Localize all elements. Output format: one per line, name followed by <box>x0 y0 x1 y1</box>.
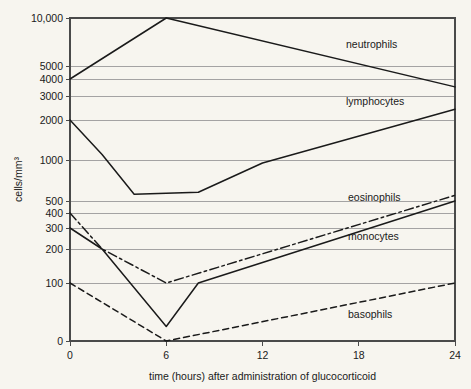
blood-cell-counts-line-chart: 01002003004005001000200030004000500010,0… <box>0 0 471 389</box>
series-line-neutrophils <box>70 18 455 87</box>
series-line-lymphocytes <box>70 109 455 194</box>
series-line-monocytes <box>70 201 455 327</box>
y-tick-label: 500 <box>45 195 63 207</box>
x-tick-label: 6 <box>163 349 169 361</box>
y-tick-label: 10,000 <box>31 12 63 24</box>
series-label-neutrophils: neutrophils <box>346 38 397 50</box>
series-label-lymphocytes: lymphocytes <box>346 95 404 107</box>
y-tick-label: 4000 <box>40 73 64 85</box>
x-tick-label: 18 <box>353 349 365 361</box>
chart-figure: 01002003004005001000200030004000500010,0… <box>0 0 471 389</box>
y-tick-label: 1000 <box>40 154 64 166</box>
x-tick-label: 12 <box>257 349 269 361</box>
series-label-monocytes: monocytes <box>348 230 399 242</box>
x-tick-label: 0 <box>67 349 73 361</box>
y-tick-label: 2000 <box>40 114 64 126</box>
gridlines <box>70 18 455 283</box>
series-label-eosinophils: eosinophils <box>348 191 401 203</box>
y-tick-label: 200 <box>45 243 63 255</box>
page-caption-fragment <box>0 379 471 389</box>
y-tick-label: 0 <box>57 335 63 347</box>
series-label-basophils: basophils <box>348 308 392 320</box>
y-tick-label: 300 <box>45 222 63 234</box>
x-tick-label: 24 <box>449 349 461 361</box>
y-axis-ticks: 01002003004005001000200030004000500010,0… <box>31 12 70 347</box>
series-line-basophils <box>70 283 455 341</box>
y-tick-label: 400 <box>45 207 63 219</box>
x-axis-ticks: 06121824 <box>67 341 461 361</box>
series-labels: neutrophilslymphocyteseosinophilsmonocyt… <box>346 38 404 320</box>
y-axis-title: cells/mm³ <box>12 157 24 202</box>
y-tick-label: 5000 <box>40 60 64 72</box>
y-tick-label: 100 <box>45 277 63 289</box>
y-tick-label: 3000 <box>40 90 64 102</box>
